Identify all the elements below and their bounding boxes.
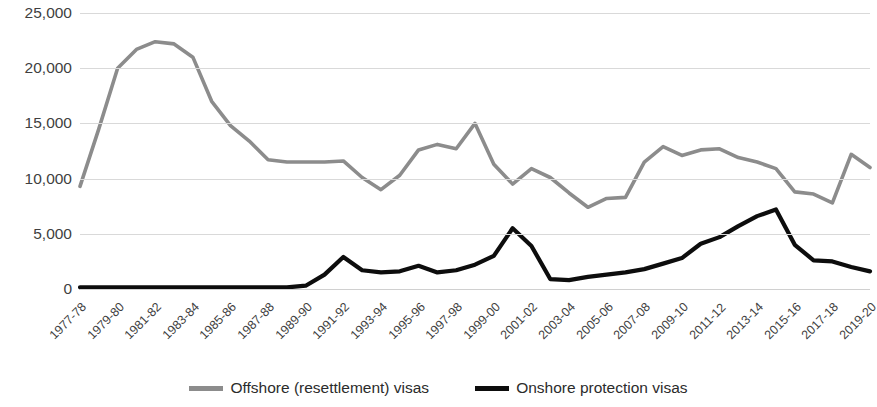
- x-axis-tick-label: 1983-84: [160, 301, 201, 342]
- series-line: [80, 210, 870, 288]
- series-line: [80, 42, 870, 208]
- x-axis-tick-label: 2013-14: [725, 301, 766, 342]
- gridline: [80, 179, 870, 180]
- x-axis-tick-label: 2009-10: [649, 301, 690, 342]
- gridline: [80, 289, 870, 290]
- legend-swatch-icon: [189, 386, 223, 391]
- x-axis-tick-label: 2001-02: [499, 301, 540, 342]
- legend-item[interactable]: Offshore (resettlement) visas: [189, 379, 429, 397]
- x-axis: 1977-781979-801981-821983-841985-861987-…: [0, 292, 877, 367]
- x-axis-tick-label: 2011-12: [687, 301, 728, 342]
- legend-label: Offshore (resettlement) visas: [230, 379, 429, 397]
- gridline: [80, 68, 870, 69]
- x-axis-tick-label: 1999-00: [461, 301, 502, 342]
- y-axis-tick-label: 10,000: [4, 171, 72, 187]
- x-axis-tick-label: 1979-80: [85, 301, 126, 342]
- x-axis-tick-label: 2015-16: [762, 301, 803, 342]
- x-axis-tick-label: 1977-78: [47, 301, 88, 342]
- gridline: [80, 13, 870, 14]
- chart-legend: Offshore (resettlement) visasOnshore pro…: [0, 374, 877, 402]
- x-axis-tick-label: 1995-96: [386, 301, 427, 342]
- y-axis-tick-label: 20,000: [4, 60, 72, 76]
- x-axis-tick-label: 1981-82: [123, 301, 164, 342]
- legend-swatch-icon: [475, 386, 509, 391]
- x-axis-tick-label: 2003-04: [537, 301, 578, 342]
- line-chart: 05,00010,00015,00020,00025,000 1977-7819…: [0, 0, 877, 407]
- x-axis-tick-label: 1993-94: [348, 301, 389, 342]
- y-axis-tick-label: 15,000: [4, 116, 72, 132]
- x-axis-tick-label: 1987-88: [236, 301, 277, 342]
- y-axis-tick-label: 25,000: [4, 5, 72, 21]
- y-axis-tick-label: 5,000: [4, 226, 72, 242]
- x-axis-tick-label: 1989-90: [273, 301, 314, 342]
- x-axis-tick-label: 2007-08: [612, 301, 653, 342]
- y-axis: 05,00010,00015,00020,00025,000: [0, 0, 72, 302]
- gridline: [80, 234, 870, 235]
- x-axis-tick-label: 1997-98: [424, 301, 465, 342]
- legend-label: Onshore protection visas: [516, 379, 687, 397]
- x-axis-tick-label: 2005-06: [574, 301, 615, 342]
- legend-item[interactable]: Onshore protection visas: [475, 379, 687, 397]
- gridline: [80, 123, 870, 124]
- plot-area: [80, 13, 870, 289]
- series-layer: [80, 13, 870, 289]
- x-axis-tick-label: 1985-86: [198, 301, 239, 342]
- x-axis-tick-label: 2017-18: [800, 301, 841, 342]
- x-axis-tick-label: 1991-92: [311, 301, 352, 342]
- x-axis-tick-label: 2019-20: [837, 301, 877, 342]
